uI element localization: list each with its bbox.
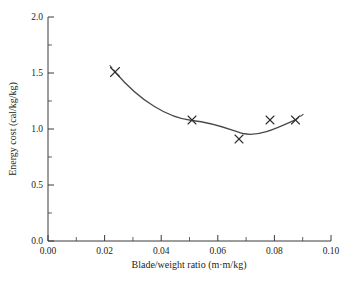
x-tick-label-4: 0.08: [266, 246, 283, 256]
y-tick-label-4: 2.0: [31, 12, 43, 22]
x-tick-label-2: 0.04: [153, 246, 170, 256]
x-axis-minor-ticks: [76, 237, 302, 241]
y-tick-label-3: 1.5: [31, 68, 43, 78]
y-axis-title: Energy cost (cal/kg/kg): [7, 82, 19, 176]
x-tick-label-0: 0.00: [40, 246, 57, 256]
data-point-marker: [111, 68, 120, 77]
x-tick-label-3: 0.06: [209, 246, 226, 256]
chart-plot-area: 0.0 0.5 1.0 1.5 2.0 0.00 0.02 0.04 0.06 …: [0, 0, 351, 281]
x-tick-label-1: 0.02: [96, 246, 113, 256]
y-axis-major-ticks: [48, 17, 54, 241]
x-axis-title: Blade/weight ratio (m·m/kg): [132, 259, 247, 271]
data-point-marker: [292, 116, 300, 124]
axis-lines: [48, 17, 331, 241]
data-point-marker: [266, 116, 274, 124]
y-tick-label-2: 1.0: [31, 124, 43, 134]
x-tick-label-5: 0.10: [323, 246, 340, 256]
y-tick-label-1: 0.5: [31, 180, 43, 190]
data-point-marker: [235, 135, 243, 143]
fit-curve: [116, 73, 296, 134]
energy-cost-chart-figure: 0.0 0.5 1.0 1.5 2.0 0.00 0.02 0.04 0.06 …: [0, 0, 351, 281]
